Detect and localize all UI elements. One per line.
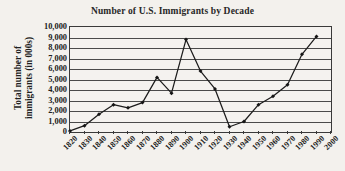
x-tick-mark bbox=[69, 131, 70, 134]
chart-figure: Number of U.S. Immigrants by Decade Tota… bbox=[0, 0, 345, 171]
x-tick-label: 1920 bbox=[206, 134, 224, 152]
data-point-marker bbox=[228, 125, 232, 129]
x-tick-mark bbox=[200, 131, 201, 134]
x-tick-mark bbox=[272, 131, 273, 134]
y-tick-label: 1,000 bbox=[26, 116, 67, 125]
plot-inner bbox=[70, 27, 331, 132]
x-tick-mark bbox=[113, 131, 114, 134]
x-tick-mark bbox=[156, 131, 157, 134]
data-point-marker bbox=[184, 38, 188, 42]
x-tick-mark bbox=[316, 131, 317, 134]
x-tick-label: 1980 bbox=[293, 134, 311, 152]
x-tick-mark bbox=[84, 131, 85, 134]
y-tick-label: 0 bbox=[26, 127, 67, 136]
y-tick-label: 5,000 bbox=[26, 74, 67, 83]
x-tick-label: 1900 bbox=[177, 134, 195, 152]
data-series-immigrants bbox=[70, 27, 331, 132]
plot-area bbox=[69, 26, 332, 133]
y-tick-label: 7,000 bbox=[26, 53, 67, 62]
x-tick-mark bbox=[214, 131, 215, 134]
x-tick-mark bbox=[258, 131, 259, 134]
x-tick-mark bbox=[330, 131, 331, 134]
x-tick-mark bbox=[243, 131, 244, 134]
y-axis-title-line-1: Total number of bbox=[13, 37, 24, 119]
y-tick-label: 10,000 bbox=[26, 22, 67, 31]
y-tick-label: 8,000 bbox=[26, 43, 67, 52]
x-axis-tick-labels: 1820183018401850186018701880189019001910… bbox=[69, 131, 330, 171]
x-tick-mark bbox=[301, 131, 302, 134]
x-tick-label: 1940 bbox=[235, 134, 253, 152]
x-tick-mark bbox=[171, 131, 172, 134]
x-tick-label: 2000 bbox=[322, 134, 340, 152]
x-tick-mark bbox=[127, 131, 128, 134]
x-tick-label: 1860 bbox=[119, 134, 137, 152]
y-tick-label: 6,000 bbox=[26, 64, 67, 73]
y-axis-tick-labels: 10,0009,0008,0007,0006,0005,0004,0003,00… bbox=[26, 21, 67, 136]
x-tick-label: 1880 bbox=[148, 134, 166, 152]
y-tick-label: 9,000 bbox=[26, 32, 67, 41]
y-tick-label: 4,000 bbox=[26, 85, 67, 94]
x-tick-mark bbox=[229, 131, 230, 134]
x-tick-mark bbox=[185, 131, 186, 134]
y-tick-label: 2,000 bbox=[26, 106, 67, 115]
chart-title: Number of U.S. Immigrants by Decade bbox=[0, 6, 345, 16]
y-tick-label: 3,000 bbox=[26, 95, 67, 104]
series-line bbox=[70, 36, 317, 131]
x-tick-label: 1820 bbox=[61, 134, 79, 152]
x-tick-mark bbox=[287, 131, 288, 134]
x-tick-mark bbox=[142, 131, 143, 134]
x-tick-label: 1840 bbox=[90, 134, 108, 152]
data-point-marker bbox=[126, 106, 130, 110]
x-tick-label: 1960 bbox=[264, 134, 282, 152]
x-tick-mark bbox=[98, 131, 99, 134]
